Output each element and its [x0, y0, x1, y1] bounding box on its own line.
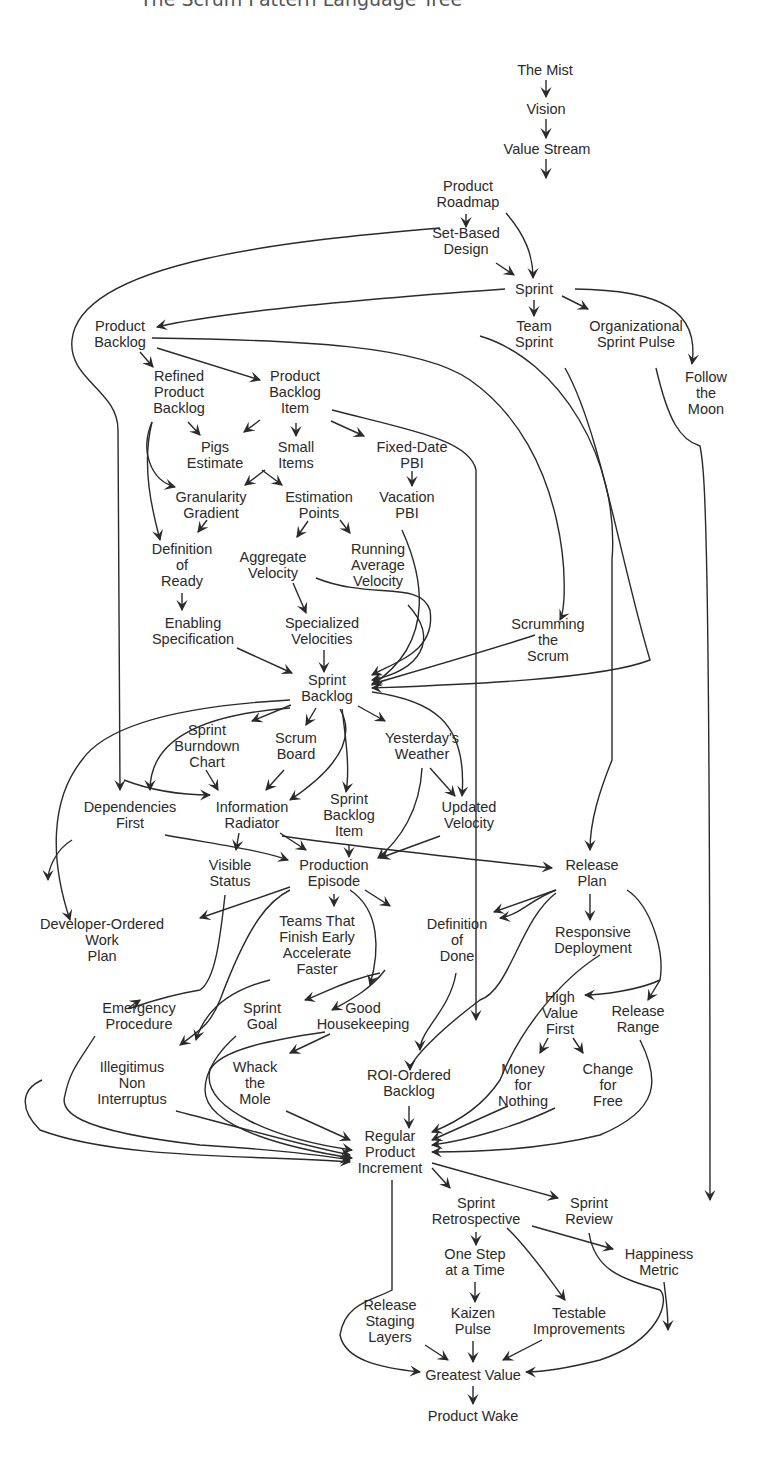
pattern-node-housekeeping: Good Housekeeping	[317, 1000, 410, 1032]
pattern-node-prodepisode: Production Episode	[299, 857, 368, 889]
pattern-node-sprint: Sprint	[515, 281, 553, 297]
pattern-node-onestep: One Step at a Time	[444, 1246, 505, 1278]
pattern-node-money: Money for Nothing	[498, 1061, 548, 1109]
pattern-node-visible: Visible Status	[209, 857, 251, 889]
pattern-node-testable: Testable Improvements	[533, 1305, 625, 1337]
pattern-node-depfirst: Dependencies First	[84, 799, 177, 831]
pattern-node-vacation: Vacation PBI	[379, 489, 434, 521]
pattern-node-sprintbacklog: Sprint Backlog	[301, 672, 353, 704]
pattern-node-followmoon: Follow the Moon	[685, 369, 727, 417]
pattern-node-orgpulse: Organizational Sprint Pulse	[589, 318, 683, 350]
pattern-node-smallitems: Small Items	[278, 439, 314, 471]
pattern-node-roi: ROI-Ordered Backlog	[367, 1067, 451, 1099]
pattern-node-aggvel: Aggregate Velocity	[240, 549, 307, 581]
pattern-node-sprintgoal: Sprint Goal	[243, 1000, 281, 1032]
pattern-node-updvel: Updated Velocity	[442, 799, 497, 831]
pattern-node-releaseplan: Release Plan	[565, 857, 618, 889]
pattern-node-highvalue: High Value First	[542, 989, 578, 1037]
pattern-node-dod: Definition of Done	[427, 916, 487, 964]
pattern-node-vision: Vision	[526, 101, 565, 117]
pattern-node-specvel: Specialized Velocities	[285, 615, 359, 647]
pattern-node-enabling: Enabling Specification	[152, 615, 234, 647]
pattern-node-dor: Definition of Ready	[152, 541, 212, 589]
pattern-node-review: Sprint Review	[565, 1195, 613, 1227]
pattern-node-whack: Whack the Mole	[233, 1059, 277, 1107]
pattern-node-sbi: Sprint Backlog Item	[323, 791, 375, 839]
pattern-node-greatest: Greatest Value	[425, 1367, 521, 1383]
pattern-node-kaizen: Kaizen Pulse	[451, 1305, 495, 1337]
pattern-node-releaserange: Release Range	[611, 1003, 664, 1035]
pattern-node-mist: The Mist	[517, 62, 573, 78]
pattern-node-setbased: Set-Based Design	[432, 225, 500, 257]
pattern-node-scrumming: Scrumming the Scrum	[511, 616, 584, 664]
pattern-node-retro: Sprint Retrospective	[432, 1195, 521, 1227]
pattern-node-teamsfinish: Teams That Finish Early Accelerate Faste…	[279, 913, 355, 977]
pattern-node-burndown: Sprint Burndown Chart	[174, 722, 239, 770]
pattern-node-roadmap: Product Roadmap	[437, 178, 500, 210]
pattern-node-changefree: Change for Free	[583, 1061, 634, 1109]
pattern-node-fixeddate: Fixed-Date PBI	[377, 439, 448, 471]
pattern-node-granularity: Granularity Gradient	[176, 489, 247, 521]
pattern-node-pbi: Product Backlog Item	[269, 368, 321, 416]
pattern-node-pigs: Pigs Estimate	[187, 439, 243, 471]
pattern-node-estpoints: Estimation Points	[285, 489, 353, 521]
pattern-node-refined: Refined Product Backlog	[153, 368, 205, 416]
pattern-node-rpi: Regular Product Increment	[358, 1128, 422, 1176]
pattern-node-illegitimus: Illegitimus Non Interruptus	[97, 1059, 166, 1107]
pattern-node-wake: Product Wake	[428, 1408, 519, 1424]
pattern-node-happiness: Happiness Metric	[625, 1246, 694, 1278]
pattern-node-staging: Release Staging Layers	[363, 1297, 416, 1345]
pattern-node-emergency: Emergency Procedure	[102, 1000, 175, 1032]
pattern-node-devordered: Developer-Ordered Work Plan	[40, 916, 164, 964]
pattern-node-scrumboard: Scrum Board	[275, 730, 317, 762]
pattern-node-inforad: Information Radiator	[216, 799, 289, 831]
pattern-node-teamsprint: Team Sprint	[515, 318, 553, 350]
pattern-node-responsive: Responsive Deployment	[554, 924, 631, 956]
pattern-node-valuestream: Value Stream	[504, 141, 591, 157]
pattern-node-runavg: Running Average Velocity	[351, 541, 405, 589]
pattern-node-yesterday: Yesterday's Weather	[385, 730, 459, 762]
pattern-node-productbacklog: Product Backlog	[94, 318, 146, 350]
